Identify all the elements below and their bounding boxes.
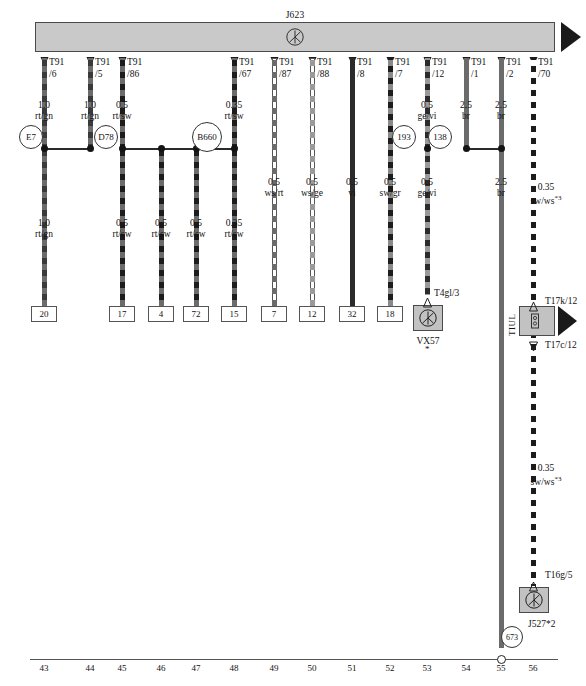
cavity-label-p5: /5 — [95, 69, 102, 80]
ruler-number-56: 56 — [529, 663, 538, 673]
reference-badge-673[interactable]: 673 — [501, 626, 523, 648]
ground-symbol-icon — [285, 27, 305, 47]
wire-color-label: rt/gn — [35, 229, 53, 240]
cavity-label-p8: /8 — [357, 69, 364, 80]
connector-label-p88: T91 — [317, 57, 332, 68]
wire-color-label: br — [497, 188, 505, 199]
terminal-box-18[interactable]: 18 — [377, 306, 403, 322]
wire-color-label: br — [462, 111, 470, 122]
reference-badge-e7[interactable]: E7 — [19, 125, 43, 149]
wire-size-label: 2.5 — [495, 177, 507, 188]
ground-symbol-icon — [418, 308, 438, 328]
ruler-number-54: 54 — [462, 663, 471, 673]
cavity-label-p86: /86 — [127, 69, 139, 80]
connector-label-p1: T91 — [471, 57, 486, 68]
junction-dot — [424, 145, 431, 152]
ruler-number-46: 46 — [157, 663, 166, 673]
connector-label-p2: T91 — [506, 57, 521, 68]
pin-arrow-icon — [423, 295, 432, 304]
ruler-number-50: 50 — [308, 663, 317, 673]
ruler-number-45: 45 — [118, 663, 127, 673]
terminal-box-7[interactable]: 7 — [261, 306, 287, 322]
wire-size-label: 0.5 — [421, 100, 433, 111]
junction-dot — [41, 145, 48, 152]
terminal-box-12[interactable]: 12 — [299, 306, 325, 322]
module-title: J623 — [286, 10, 305, 21]
connector-label-p67: T91 — [239, 57, 254, 68]
connector-label-p7: T91 — [395, 57, 410, 68]
junction-dot — [498, 145, 505, 152]
wire-size-label: 0.35 — [226, 218, 243, 229]
tiul-name-label: TIUL — [507, 306, 517, 336]
connector-label-p70: T91 — [538, 57, 553, 68]
cavity-label-p7: /7 — [395, 69, 402, 80]
wire-color-label: br — [497, 111, 505, 122]
ruler-number-43: 43 — [40, 663, 49, 673]
wire-size-label: 0.5 — [306, 177, 318, 188]
terminal-box-4[interactable]: 4 — [148, 306, 174, 322]
continuation-arrow-icon — [557, 305, 579, 341]
j527-connector-label: T16g/5 — [545, 570, 572, 581]
wire-size-label: 1.0 — [38, 100, 50, 111]
junction-link-e7-d78 — [44, 148, 90, 150]
reference-badge-193[interactable]: 193 — [392, 125, 416, 149]
wire-color-label: rt/sw — [152, 229, 171, 240]
reference-badge-b660[interactable]: B660 — [192, 122, 222, 152]
ruler-number-51: 51 — [348, 663, 357, 673]
junction-dot — [463, 145, 470, 152]
wire-color-label: rt/gn — [81, 111, 99, 122]
wire-color-label: rt/sw — [225, 229, 244, 240]
wire-color-label: ge/vi — [418, 111, 437, 122]
ruler-number-49: 49 — [270, 663, 279, 673]
terminal-box-17[interactable]: 17 — [109, 306, 135, 322]
wiring-diagram-sheet: J623 T91/6T91/5T91/86T91/67T91/87T91/88T… — [0, 0, 586, 686]
connector-label-p8: T91 — [357, 57, 372, 68]
ruler-number-53: 53 — [423, 663, 432, 673]
connector-label-p86: T91 — [127, 57, 142, 68]
cavity-label-p12: /12 — [432, 69, 444, 80]
wire-size-label: 0.5 — [268, 177, 280, 188]
ground-junction-node — [497, 655, 506, 664]
terminal-box-15[interactable]: 15 — [221, 306, 247, 322]
j527-name-label: J527*2 — [528, 619, 555, 630]
connector-label-p5: T91 — [95, 57, 110, 68]
wire-size-label: 2.5 — [495, 100, 507, 111]
wire-note-marker: *3 — [554, 475, 561, 483]
junction-dot — [158, 145, 165, 152]
wire-color-label: ws/rt — [265, 188, 284, 199]
wire-size-label: 0.5 — [421, 177, 433, 188]
reference-badge-138[interactable]: 138 — [428, 125, 452, 149]
ruler-number-44: 44 — [86, 663, 95, 673]
ruler-number-47: 47 — [192, 663, 201, 673]
wire-color-label: sw/ws*3 — [531, 193, 562, 207]
wire-size-label: 0.5 — [116, 218, 128, 229]
wire-note-marker: *3 — [554, 194, 561, 202]
terminal-box-32[interactable]: 32 — [339, 306, 365, 322]
wire-sw-ws — [531, 58, 536, 300]
ruler-number-48: 48 — [230, 663, 239, 673]
wire-size-label: 0.35 — [226, 100, 243, 111]
wire-sw-ws — [531, 336, 536, 586]
junction-dot — [231, 145, 238, 152]
connector-label-p87: T91 — [279, 57, 294, 68]
terminal-box-20[interactable]: 20 — [31, 306, 57, 322]
ruler-number-55: 55 — [497, 663, 506, 673]
wire-color-label: sw/ws*3 — [531, 474, 562, 488]
continuation-arrow-icon — [559, 21, 583, 57]
wire-size-label: 0.5 — [190, 218, 202, 229]
wire-size-label: 0.5 — [155, 218, 167, 229]
pin-arrow-icon — [529, 298, 538, 307]
wire-size-label: 0.5 — [346, 177, 358, 188]
vx57-star-marker: * — [425, 344, 430, 354]
junction-link-br-bus — [466, 148, 501, 150]
cavity-label-p2: /2 — [506, 69, 513, 80]
cavity-label-p6: /6 — [49, 69, 56, 80]
splice-block-icon — [530, 312, 540, 334]
reference-badge-d78[interactable]: D78 — [94, 125, 118, 149]
wire-size-label: 0.5 — [116, 100, 128, 111]
junction-link-rtsw-bus — [122, 148, 234, 150]
wire-size-label: 0.35 — [538, 182, 555, 193]
wire-color-label: rt/sw — [113, 111, 132, 122]
wire-size-label: 2.5 — [460, 100, 472, 111]
terminal-box-72[interactable]: 72 — [183, 306, 209, 322]
